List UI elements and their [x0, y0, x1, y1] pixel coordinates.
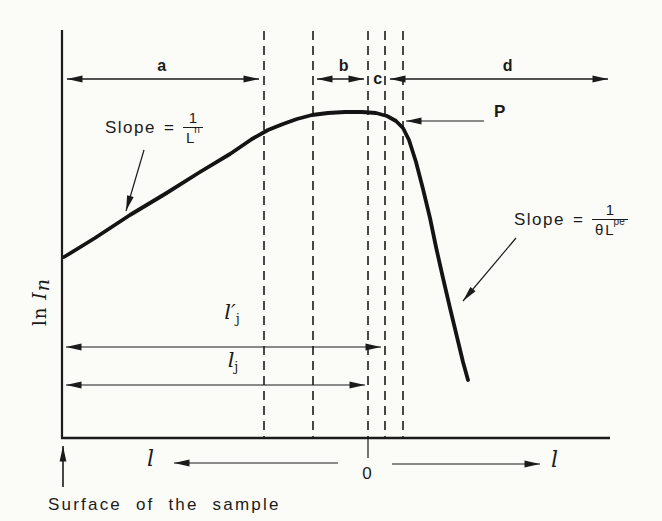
slope-right-den-base: L — [605, 222, 613, 238]
slope-left-annotation: Slope = 1 Ln — [105, 110, 203, 146]
x-axis-right-label: l — [551, 449, 558, 471]
l-j-sub: j — [234, 359, 238, 374]
y-axis-label: ln In — [28, 236, 52, 368]
slope-left-denominator: Ln — [183, 127, 203, 146]
l-j-label: lj — [228, 350, 239, 371]
surface-caption: Surface of the sample — [48, 496, 281, 513]
y-axis-symbol-sub: n — [31, 278, 53, 291]
plot-canvas — [0, 0, 662, 521]
slope-right-word: Slope — [514, 210, 565, 230]
x-axis-origin-label: 0 — [362, 465, 371, 482]
slope-left-den-base: L — [186, 130, 194, 146]
region-b-label: b — [339, 58, 349, 74]
region-c-label: c — [373, 71, 382, 87]
ln-In-curve — [64, 112, 468, 380]
l-j-base: l — [228, 348, 235, 372]
l-prime-j-label: l′j — [224, 302, 240, 323]
figure-linescan-plot: a b c d Slope = 1 Ln Slope = 1 θLpe P l′… — [0, 0, 662, 521]
y-axis-ln-text: ln — [29, 307, 50, 326]
slope-right-leader-arrow — [463, 238, 516, 301]
x-axis-left-label: l — [147, 448, 154, 470]
slope-left-equals: = — [164, 118, 174, 138]
point-p-label: P — [494, 103, 505, 120]
slope-left-fraction: 1 Ln — [183, 110, 203, 146]
l-prime-j-base: l — [224, 300, 231, 324]
slope-right-den-theta: θ — [595, 222, 603, 238]
y-axis-symbol: I — [28, 291, 50, 300]
slope-right-denominator: θLpe — [592, 219, 628, 238]
slope-left-leader-arrow — [126, 150, 144, 211]
slope-left-word: Slope — [105, 118, 156, 138]
region-d-label: d — [503, 58, 513, 74]
slope-right-equals: = — [573, 210, 583, 230]
curve-and-boundaries-layer — [64, 31, 468, 438]
slope-right-fraction: 1 θLpe — [592, 202, 628, 238]
region-a-label: a — [157, 58, 166, 74]
slope-right-annotation: Slope = 1 θLpe — [514, 202, 628, 238]
l-prime-j-sub: j — [236, 311, 240, 326]
